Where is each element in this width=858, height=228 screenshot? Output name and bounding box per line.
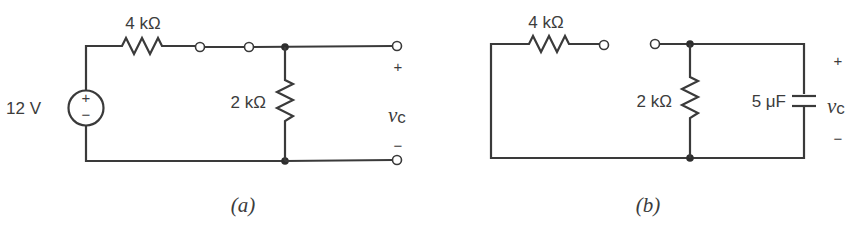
voltage-source-icon: + − [69,89,104,126]
capacitor-icon [792,96,816,111]
circuit-a: + − 12 V 4 kΩ 2 kΩ + − vc (a) [6,14,406,217]
terminal-a-left-icon [196,43,205,52]
resistor-4k-label: 4 kΩ [125,14,160,33]
output-minus-sign: − [394,137,403,154]
caption-a: (a) [231,193,256,217]
resistor-2k-label: 2 kΩ [231,93,266,112]
output-voltage-label: vc [827,94,845,118]
output-terminal-minus-icon [393,156,402,165]
wire-a-left-top [86,46,118,91]
caption-b: (b) [636,193,661,217]
resistor-2k-label: 2 kΩ [637,92,672,111]
wire-a-left-bottom [86,125,285,161]
output-terminal-plus-icon [393,42,402,51]
resistor-2k-icon [682,44,698,158]
resistor-4k-icon [525,36,600,52]
resistor-4k-label: 4 kΩ [528,13,563,32]
wire-b-top-right [660,44,805,94]
resistor-2k-icon [277,47,293,161]
source-plus-sign: + [82,89,91,106]
source-minus-sign: − [82,106,91,123]
resistor-4k-icon [118,38,196,54]
capacitor-label: 5 μF [752,92,786,111]
source-label: 12 V [6,99,42,118]
output-plus-sign: + [394,58,403,75]
output-plus-sign: + [834,52,843,69]
terminal-b-right-icon [651,40,660,49]
wire-a-bottom-right [285,160,393,161]
output-voltage-label: vc [388,103,406,127]
terminal-a-right-icon [245,43,254,52]
circuit-b: 4 kΩ 2 kΩ 5 μF + − vc (b) [491,13,845,217]
terminal-b-left-icon [600,41,609,50]
wire-a-top-right [254,46,394,47]
capacitor-label-text: 5 μF [752,92,786,111]
output-minus-sign: − [834,130,843,147]
circuit-figure: + − 12 V 4 kΩ 2 kΩ + − vc (a) [0,0,858,228]
